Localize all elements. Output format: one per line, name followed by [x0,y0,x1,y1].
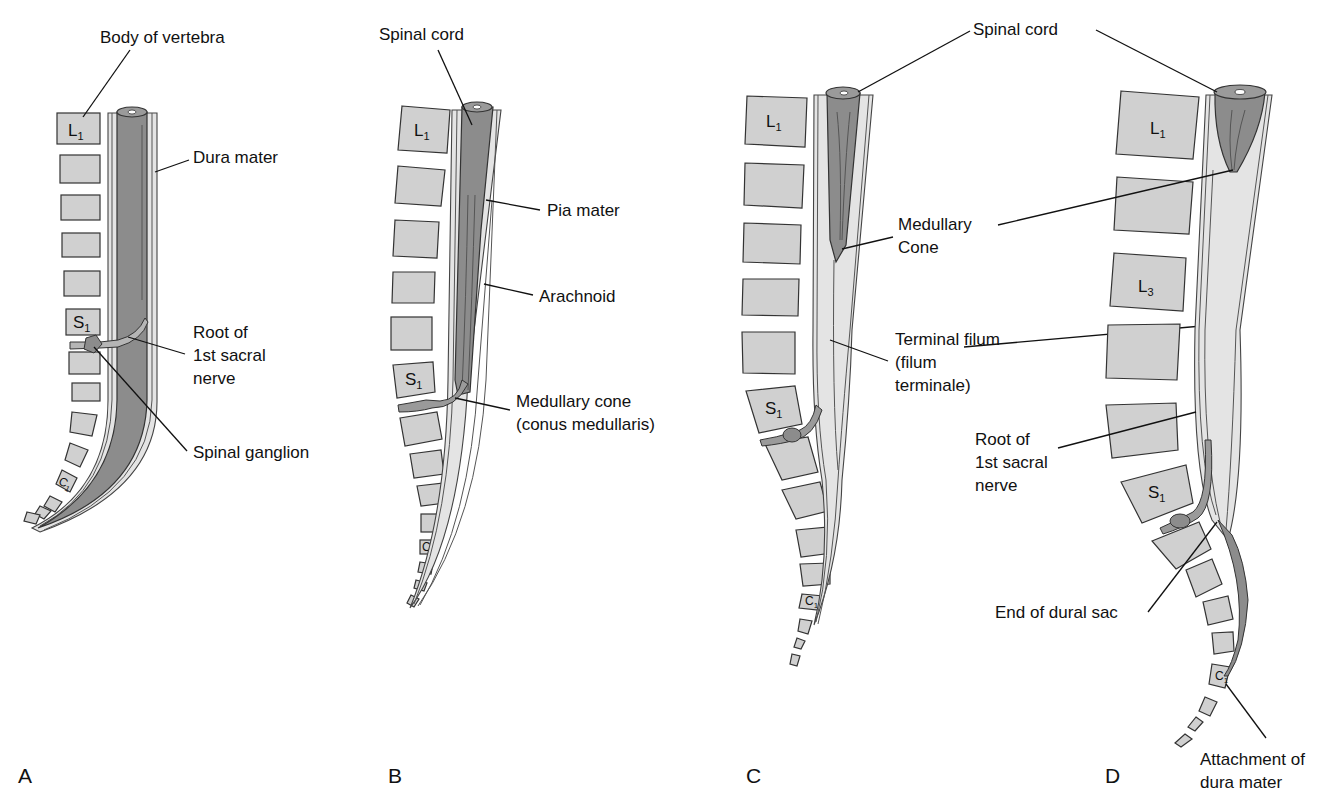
label-spinal-ganglion: Spinal ganglion [193,443,309,462]
vertebra [395,166,445,206]
label-attachment-line2: dura mater [1200,773,1283,792]
label-end-of-dural-sac: End of dural sac [995,603,1118,622]
vertebra [1175,734,1192,747]
vertebra [790,654,800,666]
vertebra [400,412,442,446]
vertebra [1186,559,1222,597]
label-filum-line3: terminale) [895,376,971,395]
label-arachnoid: Arachnoid [539,287,616,306]
vertebra [1203,596,1233,625]
vertebra [798,619,812,634]
panel-b: L1 S1 C1 Spinal cord Pia mater Arachnoid… [379,25,655,787]
label-root-of-1st-sacral-nerve-d: Root of [975,430,1030,449]
panel-letter-a: A [18,764,32,787]
panel-a-vertebrae [24,113,100,524]
label-terminal-filum: Terminal filum [895,330,1000,349]
vertebra [69,352,100,374]
vertebra [1106,403,1178,458]
vertebra [1212,632,1234,654]
panel-a: L1 S1 C1 Body of vertebra Dura mater Roo… [18,28,309,787]
label-pia-mater: Pia mater [547,201,620,220]
vertebra [391,317,432,350]
vertebra [65,443,88,467]
vertebra [70,412,97,436]
vertebra [742,279,799,316]
vertebra-l3 [1110,253,1186,311]
panel-letter-b: B [388,764,402,787]
label-root-line2-d: 1st sacral [975,453,1048,472]
label-root-line3: nerve [193,369,236,388]
vertebra [1199,697,1217,716]
label-medullary-cone-c: Medullary [898,215,972,234]
vertebra [410,450,444,478]
label-medullary-cone-b: Medullary cone [516,392,631,411]
vertebra [392,272,435,303]
label-filum-line2: (filum [895,353,937,372]
panel-letter-d: D [1105,764,1120,787]
vertebra [60,155,100,183]
vertebra [1188,717,1203,731]
label-root-of-1st-sacral-nerve-a: Root of [193,323,248,342]
vertebra [64,271,100,296]
label-dura-mater: Dura mater [193,148,278,167]
vertebra [62,233,100,257]
vertebra [782,482,828,519]
vertebra [743,223,801,264]
panel-letter-c: C [746,764,761,787]
vertebra [1106,324,1180,380]
label-conus-medullaris: (conus medullaris) [516,415,655,434]
label-root-line3-d: nerve [975,476,1018,495]
label-spinal-cord-cd: Spinal cord [973,20,1058,39]
spinal-ganglion-a [84,335,102,353]
panel-d: L1 L3 S1 C1 Root of 1st sacral nerve End… [975,30,1305,792]
label-spinal-cord-b: Spinal cord [379,25,464,44]
vertebra [744,163,804,208]
vertebra [794,638,805,649]
spinal-cord-development-diagram: L1 S1 C1 Body of vertebra Dura mater Roo… [0,0,1338,802]
label-root-line2: 1st sacral [193,346,266,365]
vertebra [742,332,795,374]
vertebra [393,220,439,258]
vertebra [1114,177,1193,234]
vertebra [72,383,100,401]
label-attachment-of-dura-mater: Attachment of [1200,750,1305,769]
vertebra [61,195,100,220]
label-cone: Cone [898,238,939,257]
label-body-of-vertebra: Body of vertebra [100,28,225,47]
